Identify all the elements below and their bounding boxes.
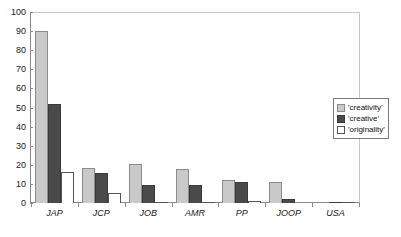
legend-label-creative: 'creative' (348, 115, 379, 123)
x-axis-tick-mark (359, 203, 360, 207)
y-axis-tick-mark (30, 12, 33, 13)
bar-group (268, 12, 309, 203)
bar (129, 164, 142, 203)
x-axis-tick-mark (218, 203, 219, 207)
bar (155, 202, 168, 203)
legend-item-creativity: 'creativity' (337, 102, 385, 113)
y-axis-tick-mark (30, 127, 33, 128)
bar-group (221, 12, 262, 203)
x-axis-label: USA (326, 209, 345, 218)
bar (282, 199, 295, 203)
chart-legend: 'creativity' 'creative' 'originality' (333, 98, 389, 139)
bar (142, 185, 155, 203)
y-axis: 0102030405060708090100 (0, 0, 30, 203)
legend-item-creative: 'creative' (337, 113, 385, 124)
y-axis-tick-mark (30, 50, 33, 51)
y-axis-tick-label: 20 (0, 160, 26, 169)
x-axis-tick-mark (125, 203, 126, 207)
bar (269, 182, 282, 203)
x-axis-label: AMR (185, 209, 205, 218)
bar (176, 169, 189, 203)
bar (329, 202, 342, 203)
y-axis-tick-mark (30, 88, 33, 89)
legend-swatch-originality (337, 126, 345, 134)
y-axis-tick-mark (30, 165, 33, 166)
bar (342, 202, 355, 203)
x-axis-tick-mark (312, 203, 313, 207)
y-axis-tick-label: 100 (0, 8, 26, 17)
x-axis-tick-mark (78, 203, 79, 207)
bar-chart: 0102030405060708090100 'creativity' 'cre… (0, 0, 401, 237)
bar (48, 104, 61, 203)
bar (108, 193, 121, 204)
x-axis-label: JOOP (276, 209, 301, 218)
bar (235, 182, 248, 203)
y-axis-tick-mark (30, 146, 33, 147)
bars-layer (31, 12, 359, 203)
y-axis-tick-label: 60 (0, 84, 26, 93)
y-axis-tick-label: 80 (0, 46, 26, 55)
x-axis-label: JOB (139, 209, 157, 218)
legend-label-creativity: 'creativity' (348, 104, 383, 112)
x-axis-label: PP (236, 209, 248, 218)
y-axis-tick-label: 50 (0, 103, 26, 112)
y-axis-tick-label: 0 (0, 199, 26, 208)
y-axis-tick-label: 10 (0, 179, 26, 188)
bar (248, 201, 261, 203)
bar (189, 185, 202, 203)
bar (95, 173, 108, 203)
bar (202, 202, 215, 203)
bar-group (34, 12, 75, 203)
bar (82, 168, 95, 203)
x-axis-tick-mark (31, 203, 32, 207)
x-axis-label: JCP (93, 209, 110, 218)
x-axis-tick-mark (172, 203, 173, 207)
bar-group (175, 12, 216, 203)
y-axis-tick-label: 70 (0, 65, 26, 74)
y-axis-tick-label: 30 (0, 141, 26, 150)
bar (35, 31, 48, 203)
y-axis-tick-label: 90 (0, 27, 26, 36)
legend-label-originality: 'originality' (348, 126, 385, 134)
legend-swatch-creativity (337, 104, 345, 112)
bar (316, 202, 329, 203)
legend-swatch-creative (337, 115, 345, 123)
y-axis-tick-label: 40 (0, 122, 26, 131)
bar (222, 180, 235, 203)
legend-item-originality: 'originality' (337, 124, 385, 135)
x-axis-label: JAP (46, 209, 63, 218)
y-axis-tick-mark (30, 108, 33, 109)
y-axis-tick-mark (30, 69, 33, 70)
y-axis-tick-mark (30, 184, 33, 185)
bar-group (128, 12, 169, 203)
y-axis-tick-mark (30, 31, 33, 32)
bar (61, 172, 74, 203)
bar-group (81, 12, 122, 203)
x-axis-tick-mark (265, 203, 266, 207)
